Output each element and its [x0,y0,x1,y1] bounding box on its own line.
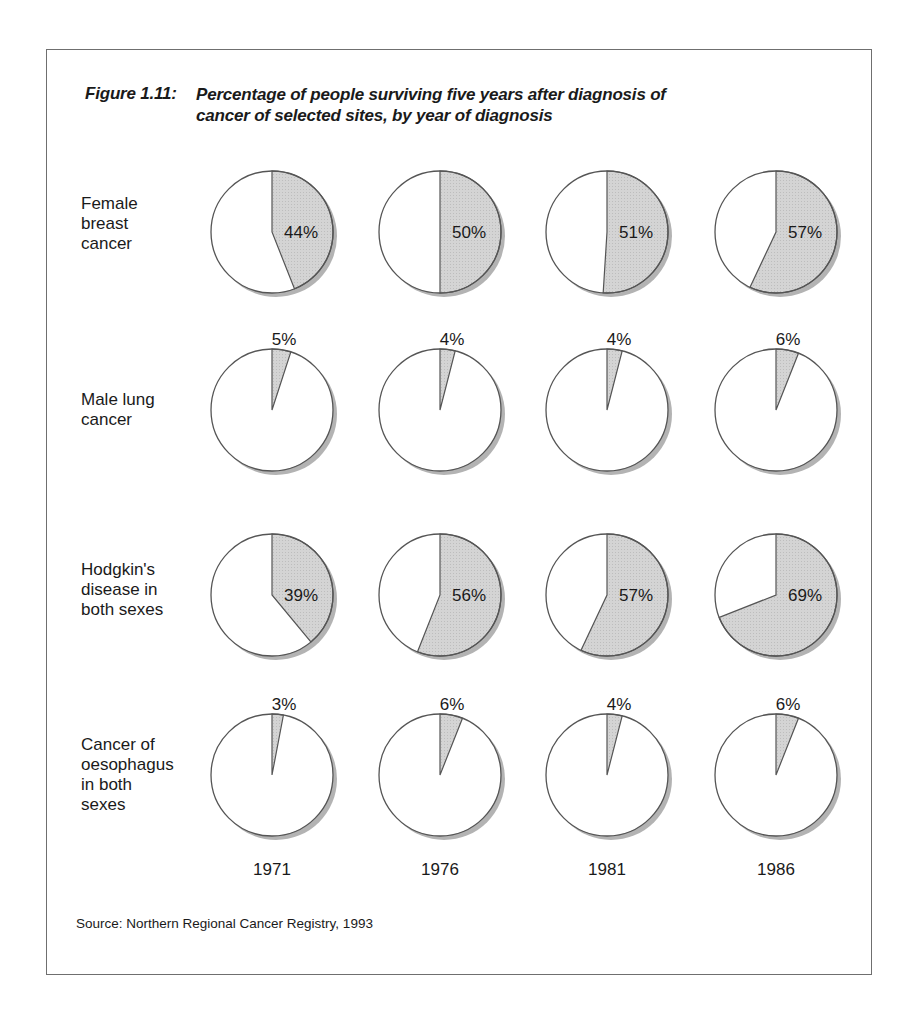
pie-percent-label: 6% [776,330,801,349]
pie-hodgkin-s-disease-in-both-sexes-1986: 69% [715,534,841,660]
pie-percent-label: 39% [284,586,318,605]
pie-male-lung-cancer-1976: 4% [379,330,505,475]
year-label-1986: 1986 [736,860,816,880]
pie-percent-label: 3% [272,695,297,714]
pie-cancer-of-oesophagus-in-both-sexes-1986: 6% [715,695,841,840]
pie-percent-label: 50% [452,223,486,242]
pie-percent-label: 6% [776,695,801,714]
pie-male-lung-cancer-1986: 6% [715,330,841,475]
pie-female-breast-cancer-1971: 44% [211,171,337,297]
source-note: Source: Northern Regional Cancer Registr… [76,916,373,931]
pie-cancer-of-oesophagus-in-both-sexes-1976: 6% [379,695,505,840]
pie-hodgkin-s-disease-in-both-sexes-1976: 56% [379,534,505,660]
pie-percent-label: 4% [607,695,632,714]
pie-hodgkin-s-disease-in-both-sexes-1971: 39% [211,534,337,660]
year-label-1976: 1976 [400,860,480,880]
pie-cancer-of-oesophagus-in-both-sexes-1981: 4% [546,695,672,840]
pie-hodgkin-s-disease-in-both-sexes-1981: 57% [546,534,672,660]
pie-female-breast-cancer-1976: 50% [379,171,505,297]
pie-percent-label: 69% [788,586,822,605]
pie-cancer-of-oesophagus-in-both-sexes-1971: 3% [211,695,337,840]
pie-percent-label: 51% [619,223,653,242]
pie-female-breast-cancer-1981: 51% [546,171,672,297]
pie-percent-label: 44% [284,223,318,242]
pie-female-breast-cancer-1986: 57% [715,171,841,297]
pie-percent-label: 56% [452,586,486,605]
pie-percent-label: 4% [607,330,632,349]
pie-percent-label: 6% [440,695,465,714]
year-label-1981: 1981 [567,860,647,880]
pie-percent-label: 57% [619,586,653,605]
pie-male-lung-cancer-1981: 4% [546,330,672,475]
pie-percent-label: 57% [788,223,822,242]
pie-percent-label: 5% [272,330,297,349]
year-label-1971: 1971 [232,860,312,880]
pie-percent-label: 4% [440,330,465,349]
pie-male-lung-cancer-1971: 5% [211,330,337,475]
